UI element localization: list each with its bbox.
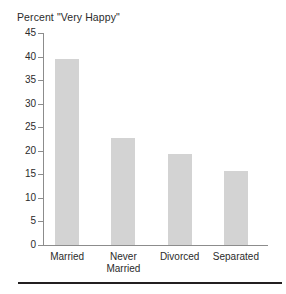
- y-axis-line: [43, 33, 44, 245]
- y-tick-label: 25: [25, 121, 36, 132]
- y-tick-label: 0: [30, 239, 36, 250]
- y-tick-label: 45: [25, 27, 36, 38]
- y-tick-mark: [38, 33, 43, 34]
- y-tick-label: 10: [25, 192, 36, 203]
- bar-never-married[interactable]: [111, 138, 135, 245]
- bar-married[interactable]: [55, 59, 79, 245]
- y-tick-label: 40: [25, 51, 36, 62]
- chart-title: Percent "Very Happy": [17, 11, 120, 23]
- bar-chart-figure: Percent "Very Happy" 0 5 10 15 20 25: [0, 0, 286, 294]
- x-label-line: Separated: [193, 251, 279, 263]
- y-tick-label: 30: [25, 98, 36, 109]
- x-label-line: Married: [80, 263, 166, 275]
- bar-divorced[interactable]: [168, 154, 192, 245]
- bar-separated[interactable]: [224, 171, 248, 245]
- y-tick-label: 15: [25, 168, 36, 179]
- y-tick-label: 35: [25, 74, 36, 85]
- y-tick-mark: [38, 104, 43, 105]
- x-axis-line: [43, 245, 268, 246]
- y-tick-mark: [38, 174, 43, 175]
- y-tick-mark: [38, 198, 43, 199]
- y-tick-mark: [38, 57, 43, 58]
- y-tick-label: 5: [30, 215, 36, 226]
- y-tick-mark: [38, 127, 43, 128]
- bottom-divider: [18, 282, 282, 284]
- y-tick-mark: [38, 245, 43, 246]
- y-tick-mark: [38, 80, 43, 81]
- y-tick-mark: [38, 221, 43, 222]
- x-label-separated: Separated: [193, 251, 279, 263]
- y-tick-mark: [38, 151, 43, 152]
- y-tick-label: 20: [25, 145, 36, 156]
- plot-area: 0 5 10 15 20 25 30 35: [43, 33, 268, 245]
